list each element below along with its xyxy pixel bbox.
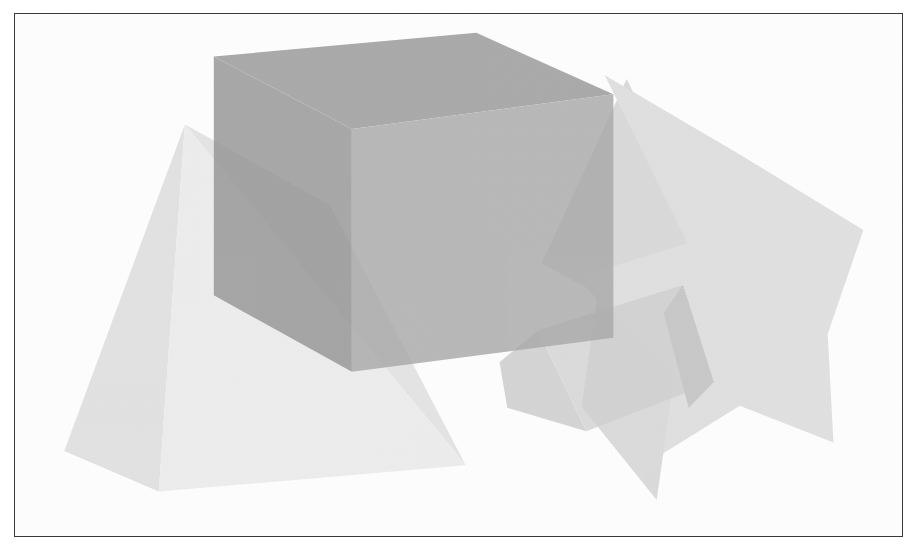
- geometry-svg: [15, 14, 902, 536]
- image-frame-border: [14, 13, 903, 537]
- halftone-texture-overlay: [15, 14, 902, 536]
- render-canvas-stage: Overlapping translucent 3D solids: [0, 0, 919, 553]
